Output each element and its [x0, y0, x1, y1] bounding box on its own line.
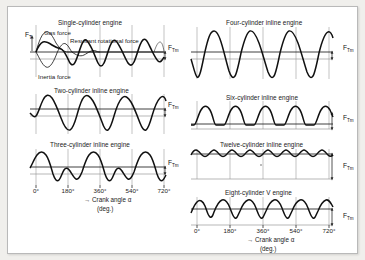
panel-title-two-cylinder: Two-cylinder inline engine — [54, 87, 129, 94]
xtick-180-right: 180° — [220, 227, 240, 234]
xtick-0-right: 0° — [189, 227, 205, 234]
xtick-180-left: 180° — [58, 187, 78, 194]
x-axis-caption-right: Crank angle α — [255, 236, 294, 243]
x-axis-arrow-right: → Crank angle α — [247, 236, 294, 243]
panel-twelve-cylinder: Twelve-cylinder inline engine FTm — [183, 135, 357, 189]
y-axis-label-ft-single: FT — [25, 31, 32, 40]
mean-force-label-two: FTm — [168, 101, 179, 110]
mean-force-label-six: FTm — [343, 114, 354, 123]
panel-eight-cylinder-v: Eight-cylinder V engine FTm — [183, 187, 357, 253]
xtick-360-left: 360° — [90, 187, 110, 194]
plot-eight-cylinder-v — [183, 187, 357, 253]
x-axis-arrow-left: → Crank angle α — [84, 196, 131, 203]
panel-title-single-cylinder: Single-cylinder engine — [58, 19, 122, 26]
mean-force-label-twelve: FTm — [343, 162, 354, 171]
x-axis-units-left: (deg.) — [97, 205, 113, 212]
mean-force-label-single: FTm — [168, 44, 179, 53]
annotation-resultant-force: Resultant rotational force — [70, 37, 139, 44]
panel-title-eight-cylinder-v: Eight-cylinder V engine — [225, 189, 292, 196]
annotation-gas-force: Gas force — [44, 29, 71, 36]
panel-title-three-cylinder: Three-cylinder inline engine — [50, 141, 130, 148]
panel-title-twelve-cylinder: Twelve-cylinder inline engine — [220, 141, 303, 148]
panel-two-cylinder: Two-cylinder inline engine FTm — [8, 82, 183, 137]
xtick-720-right: 720° — [319, 227, 339, 234]
xtick-720-left: 720° — [154, 187, 174, 194]
mean-force-label-four: FTm — [343, 44, 354, 53]
panel-title-four-cylinder: Four-cylinder inline engine — [226, 19, 302, 26]
xtick-0-left: 0° — [28, 187, 44, 194]
xtick-360-right: 360° — [253, 227, 273, 234]
plot-six-cylinder — [183, 85, 357, 137]
xtick-540-right: 540° — [286, 227, 306, 234]
panel-six-cylinder: Six-cylinder inline engine FTm — [183, 85, 357, 137]
panel-title-six-cylinder: Six-cylinder inline engine — [226, 94, 298, 101]
xtick-540-left: 540° — [122, 187, 142, 194]
x-axis-caption-left: Crank angle α — [92, 196, 131, 203]
panel-four-cylinder: Four-cylinder inline engine FTm — [183, 7, 357, 85]
figure-frame: Single-cylinder engine Gas force Resulta… — [7, 6, 358, 254]
panel-three-cylinder: Three-cylinder inline engine FTm — [8, 137, 183, 197]
panel-single-cylinder: Single-cylinder engine Gas force Resulta… — [8, 7, 183, 87]
annotation-inertia-force: Inertia force — [38, 73, 71, 80]
mean-force-label-eight: FTm — [343, 212, 354, 221]
x-axis-units-right: (deg.) — [260, 245, 276, 252]
mean-force-label-three: FTm — [168, 159, 179, 168]
